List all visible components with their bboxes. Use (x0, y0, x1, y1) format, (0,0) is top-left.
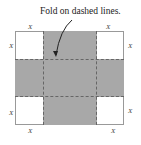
label-x: X (128, 107, 132, 115)
label-x: X (128, 42, 132, 50)
arrow-icon (0, 0, 141, 145)
label-x: X (9, 109, 13, 117)
label-x: X (9, 42, 13, 50)
label-x: X (111, 127, 115, 135)
label-x: X (106, 23, 110, 31)
label-x: X (28, 127, 32, 135)
label-x: X (28, 23, 32, 31)
